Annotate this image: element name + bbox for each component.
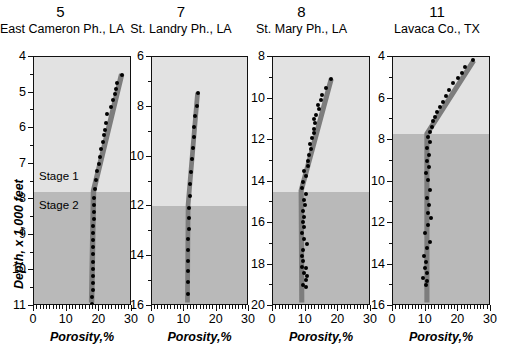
x-major-tick — [337, 305, 338, 311]
data-point — [425, 159, 429, 163]
panel-number: 5 — [0, 4, 121, 20]
data-point — [192, 135, 196, 139]
x-tick-label: 10 — [298, 313, 312, 326]
x-major-tick — [66, 305, 67, 311]
panel-number: 7 — [121, 4, 241, 20]
y-major-tick — [28, 127, 33, 128]
x-minor-tick — [36, 305, 37, 309]
x-minor-tick — [344, 305, 345, 309]
x-minor-tick — [318, 305, 319, 309]
y-tick-label: 10 — [241, 92, 265, 104]
x-minor-tick — [95, 305, 96, 309]
data-point — [187, 216, 191, 220]
data-point — [92, 217, 96, 221]
x-minor-tick — [350, 305, 351, 309]
y-major-tick — [267, 139, 272, 140]
data-point — [196, 91, 200, 95]
x-minor-tick — [72, 305, 73, 309]
data-point — [427, 153, 431, 157]
x-axis-title: Porosity,% — [409, 330, 473, 344]
y-major-tick — [146, 56, 151, 57]
y-tick-label: 12 — [241, 133, 265, 145]
data-point — [115, 81, 119, 85]
y-tick-label: 4 — [0, 50, 26, 62]
data-point — [186, 237, 190, 241]
y-minor-tick — [30, 109, 33, 110]
y-tick-label: 6 — [121, 50, 144, 62]
data-point — [300, 186, 304, 190]
y-minor-tick — [389, 201, 392, 202]
x-minor-tick — [477, 305, 478, 309]
data-point — [429, 216, 433, 220]
x-minor-tick — [164, 305, 165, 309]
x-minor-tick — [108, 305, 109, 309]
y-tick-label: 6 — [0, 121, 26, 133]
y-major-tick — [267, 264, 272, 265]
y-major-tick — [387, 139, 392, 140]
x-minor-tick — [301, 305, 302, 309]
y-tick-label: 10 — [0, 263, 26, 275]
x-minor-tick — [167, 305, 168, 309]
y-tick-label: 14 — [241, 175, 265, 187]
x-major-tick — [305, 305, 306, 311]
x-tick-label: 20 — [209, 313, 223, 326]
y-minor-tick — [269, 118, 272, 119]
x-axis-title: Porosity,% — [167, 330, 231, 344]
y-tick-label: 20 — [241, 299, 265, 311]
data-point — [97, 162, 101, 166]
x-minor-tick — [177, 305, 178, 309]
x-minor-tick — [415, 305, 416, 309]
x-minor-tick — [282, 305, 283, 309]
data-point — [306, 159, 310, 163]
data-point — [186, 292, 190, 296]
x-minor-tick — [196, 305, 197, 309]
data-point — [307, 153, 311, 157]
x-minor-tick — [285, 305, 286, 309]
x-minor-tick — [46, 305, 47, 309]
x-minor-tick — [111, 305, 112, 309]
y-tick-label: 14 — [362, 258, 385, 270]
x-major-tick — [33, 305, 34, 311]
panel-title: Lavaca Co., TX — [362, 22, 512, 36]
x-minor-tick — [49, 305, 50, 309]
data-point — [300, 265, 304, 269]
x-minor-tick — [279, 305, 280, 309]
data-point — [428, 130, 432, 134]
x-minor-tick — [40, 305, 41, 309]
x-minor-tick — [314, 305, 315, 309]
trend-band — [393, 57, 489, 304]
y-minor-tick — [148, 230, 151, 231]
x-major-tick — [98, 305, 99, 311]
y-major-tick — [146, 156, 151, 157]
x-minor-tick — [232, 305, 233, 309]
y-major-tick — [146, 205, 151, 206]
x-minor-tick — [470, 305, 471, 309]
x-minor-tick — [118, 305, 119, 309]
x-minor-tick — [461, 305, 462, 309]
x-minor-tick — [408, 305, 409, 309]
data-point — [191, 146, 195, 150]
x-tick-label: 0 — [389, 313, 396, 326]
x-minor-tick — [421, 305, 422, 309]
y-major-tick — [28, 163, 33, 164]
data-point — [329, 77, 333, 81]
y-minor-tick — [148, 280, 151, 281]
data-point — [98, 155, 102, 159]
plot-area — [392, 56, 490, 305]
y-tick-label: 10 — [121, 150, 144, 162]
data-point — [312, 131, 316, 135]
x-minor-tick — [212, 305, 213, 309]
y-minor-tick — [30, 181, 33, 182]
data-point — [91, 260, 95, 264]
y-minor-tick — [148, 181, 151, 182]
x-minor-tick — [328, 305, 329, 309]
x-minor-tick — [174, 305, 175, 309]
data-point — [92, 203, 96, 207]
x-minor-tick — [399, 305, 400, 309]
panel-number: 11 — [362, 4, 512, 20]
x-tick-label: 20 — [330, 313, 344, 326]
x-minor-tick — [354, 305, 355, 309]
y-tick-label: 4 — [362, 50, 385, 62]
y-major-tick — [267, 56, 272, 57]
y-major-tick — [387, 222, 392, 223]
